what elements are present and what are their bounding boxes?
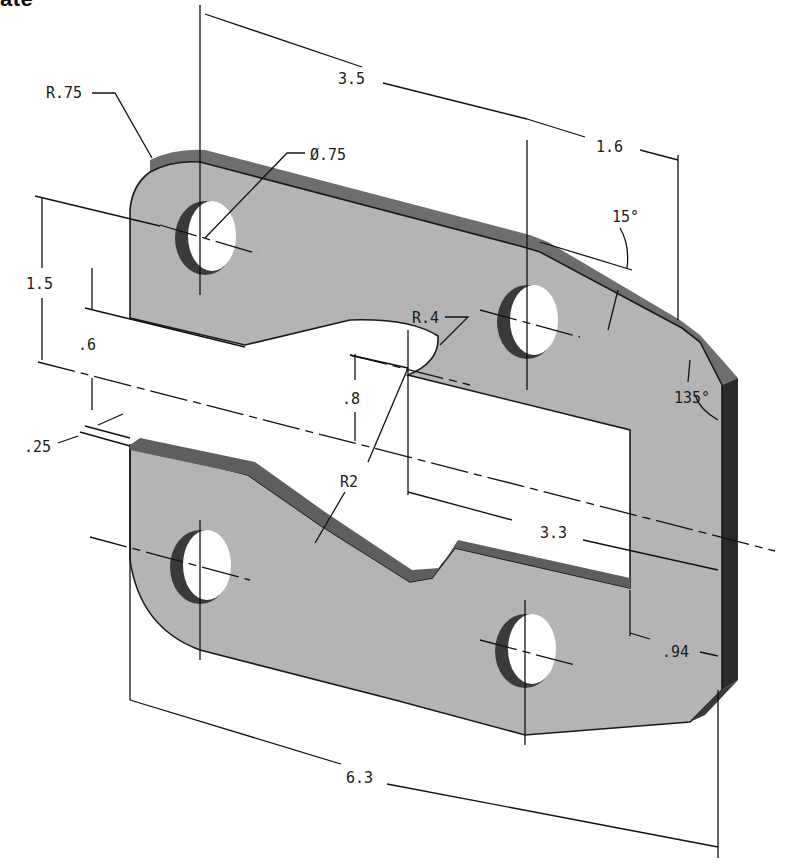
label-slot-gap: .25 (24, 438, 51, 456)
label-hole-spacing-y: 1.5 (26, 275, 53, 293)
label-corner-radius: R.75 (46, 84, 82, 102)
plate-drawing: R.75 Ø.75 3.5 1.6 15° 135° 1.5 .6 .25 R.… (0, 0, 791, 867)
label-slot-offset: .6 (78, 336, 96, 354)
label-slot-end-offset: .94 (662, 643, 689, 661)
label-overall-length: 6.3 (346, 769, 373, 787)
label-chamfer-angle: 15° (612, 208, 639, 226)
label-hole-to-edge-x: 1.6 (596, 138, 623, 156)
label-notch-radius: R.4 (412, 309, 439, 327)
label-hole-diameter: Ø.75 (310, 146, 346, 164)
label-corner-angle: 135° (674, 389, 710, 407)
label-notch-center-offset: .8 (342, 390, 360, 408)
label-arc-radius: R2 (340, 473, 358, 491)
label-slot-length: 3.3 (540, 524, 567, 542)
right-side-edge (722, 378, 738, 690)
label-hole-spacing-x: 3.5 (338, 70, 365, 88)
